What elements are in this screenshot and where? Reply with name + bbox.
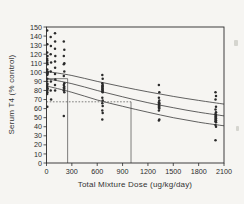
y-tick-label: 150 bbox=[30, 23, 42, 32]
y-tick-label: 110 bbox=[31, 59, 42, 68]
y-tick-label: 140 bbox=[30, 32, 42, 41]
scatter-point bbox=[101, 77, 104, 80]
scatter-point bbox=[54, 32, 57, 35]
x-axis-title: Total Mixture Dose (ug/kg/day) bbox=[46, 180, 224, 189]
plot-border bbox=[47, 27, 225, 163]
scatter-point bbox=[215, 121, 218, 124]
scatter-point bbox=[54, 55, 57, 58]
y-tick-label: 60 bbox=[34, 104, 42, 113]
scatter-point bbox=[54, 78, 57, 81]
scatter-point bbox=[54, 40, 57, 43]
y-tick-label: 120 bbox=[30, 50, 42, 59]
scatter-point bbox=[49, 36, 52, 39]
scatter-point bbox=[214, 108, 217, 111]
scatter-point bbox=[101, 74, 104, 77]
fitted-curve bbox=[47, 79, 225, 116]
x-tick-label: 1500 bbox=[165, 167, 181, 176]
scatter-point bbox=[101, 99, 104, 102]
scatter-point bbox=[101, 112, 104, 115]
scatter-point bbox=[63, 91, 66, 94]
scatter-point bbox=[101, 109, 104, 112]
scatter-point bbox=[49, 70, 52, 73]
scatter-point bbox=[158, 91, 161, 94]
scatter-point bbox=[54, 89, 57, 92]
y-tick-label: 130 bbox=[30, 41, 42, 50]
scatter-point bbox=[158, 119, 161, 122]
scatter-point bbox=[50, 45, 53, 48]
x-tick-label: 2100 bbox=[216, 167, 232, 176]
scatter-point bbox=[214, 139, 217, 142]
scatter-point bbox=[214, 91, 217, 94]
scatter-point bbox=[63, 115, 66, 118]
scatter-point bbox=[101, 102, 104, 105]
scan-artifact bbox=[236, 126, 239, 131]
y-tick-label: 40 bbox=[34, 122, 42, 131]
x-tick-label: 0 bbox=[45, 167, 49, 176]
scatter-point bbox=[63, 70, 66, 73]
y-tick-label: 50 bbox=[34, 113, 42, 122]
scatter-point bbox=[54, 84, 57, 87]
y-tick-label: 100 bbox=[30, 68, 42, 77]
y-tick-label: 80 bbox=[34, 86, 42, 95]
y-tick-label: 20 bbox=[34, 140, 42, 149]
y-tick-label: 90 bbox=[34, 77, 42, 86]
scan-artifact bbox=[234, 40, 238, 46]
y-tick-label: 0 bbox=[38, 159, 42, 168]
x-tick-label: 300 bbox=[66, 167, 78, 176]
y-axis-title: Serum T4 (% control) bbox=[7, 20, 16, 170]
scatter-point bbox=[54, 48, 57, 51]
scatter-point bbox=[54, 60, 57, 63]
scatter-point bbox=[50, 61, 53, 64]
scatter-point bbox=[158, 84, 161, 87]
figure-scan-page: 0300600900120015001800210001020304050607… bbox=[0, 0, 244, 204]
y-tick-label: 70 bbox=[34, 95, 42, 104]
lower-confidence-curve bbox=[47, 86, 225, 126]
scatter-point bbox=[101, 118, 104, 121]
y-tick-label: 30 bbox=[34, 131, 42, 140]
scatter-point bbox=[54, 67, 57, 70]
scatter-point bbox=[63, 75, 66, 78]
scatter-point bbox=[49, 89, 52, 92]
scatter-point bbox=[215, 95, 218, 98]
scatter-point bbox=[158, 96, 161, 99]
x-tick-label: 600 bbox=[91, 167, 103, 176]
scatter-point bbox=[101, 91, 104, 94]
x-tick-label: 1800 bbox=[191, 167, 207, 176]
scatter-point bbox=[49, 53, 52, 56]
scatter-point bbox=[215, 125, 218, 128]
scatter-point bbox=[54, 73, 57, 76]
scatter-point bbox=[101, 105, 104, 108]
scatter-point bbox=[63, 55, 66, 58]
upper-confidence-curve bbox=[47, 71, 225, 104]
scatter-point bbox=[214, 98, 217, 101]
scatter-point bbox=[158, 109, 161, 112]
scatter-point bbox=[63, 63, 66, 66]
scatter-point bbox=[63, 48, 66, 51]
scatter-point bbox=[50, 98, 53, 101]
x-tick-label: 1200 bbox=[140, 167, 156, 176]
y-tick-label: 10 bbox=[34, 150, 42, 159]
scatter-point bbox=[101, 96, 104, 99]
t4-dose-response-chart: 0300600900120015001800210001020304050607… bbox=[0, 0, 244, 204]
scatter-point bbox=[215, 106, 218, 109]
scatter-point bbox=[50, 80, 53, 83]
x-tick-label: 900 bbox=[117, 167, 129, 176]
scatter-point bbox=[63, 40, 66, 43]
